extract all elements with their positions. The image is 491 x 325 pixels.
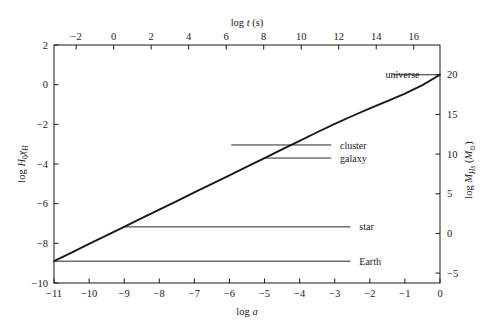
x-tick-label: −6: [224, 288, 235, 299]
right-tick-label: 15: [447, 109, 458, 120]
svg-text:log t (s): log t (s): [231, 17, 264, 29]
horizon-mass-chart: −11−10−9−8−7−6−5−4−3−2−1020−2−4−6−8−10−2…: [0, 0, 491, 325]
top-tick-label: 12: [333, 31, 344, 42]
y-tick-label: −10: [32, 278, 48, 289]
top-tick-label: 14: [371, 31, 382, 42]
right-tick-label: 20: [447, 69, 458, 80]
x-tick-label: −11: [46, 288, 62, 299]
y-tick-label: −2: [37, 119, 48, 130]
right-tick-label: 0: [447, 228, 452, 239]
x-tick-label: −8: [154, 288, 165, 299]
annotation-label-cluster: cluster: [340, 140, 367, 151]
x-tick-label: −1: [399, 288, 410, 299]
top-tick-label: −2: [71, 31, 82, 42]
x-tick-label: −7: [189, 288, 200, 299]
top-tick-label: 10: [296, 31, 307, 42]
x-tick-label: −3: [329, 288, 340, 299]
x-tick-label: −5: [259, 288, 270, 299]
chart-background: [0, 0, 491, 325]
annotation-label-star: star: [359, 221, 374, 232]
y-tick-label: −4: [37, 159, 49, 170]
top-tick-label: 4: [186, 31, 192, 42]
annotation-label-universe: universe: [386, 69, 420, 80]
right-tick-label: −5: [447, 268, 458, 279]
x-axis-label: log a: [236, 306, 257, 317]
x-tick-label: −4: [294, 288, 306, 299]
y-tick-label: 2: [43, 40, 48, 51]
top-tick-label: 8: [261, 31, 266, 42]
y-tick-label: −8: [37, 238, 48, 249]
x-tick-label: −9: [119, 288, 130, 299]
right-tick-label: 5: [447, 188, 452, 199]
top-axis-label: log t (s): [231, 17, 264, 29]
x-tick-label: −10: [81, 288, 97, 299]
x-tick-label: −2: [364, 288, 375, 299]
y-tick-label: 0: [43, 79, 48, 90]
right-tick-label: 10: [447, 149, 458, 160]
y-tick-label: −6: [37, 198, 48, 209]
top-tick-label: 16: [408, 31, 419, 42]
annotation-label-galaxy: galaxy: [340, 153, 367, 164]
top-tick-label: 0: [111, 31, 116, 42]
x-tick-label: 0: [437, 288, 442, 299]
svg-text:log a: log a: [236, 306, 257, 317]
top-tick-label: 6: [224, 31, 229, 42]
top-tick-label: 2: [149, 31, 154, 42]
chart-figure: −11−10−9−8−7−6−5−4−3−2−1020−2−4−6−8−10−2…: [0, 0, 491, 325]
annotation-label-Earth: Earth: [359, 256, 381, 267]
